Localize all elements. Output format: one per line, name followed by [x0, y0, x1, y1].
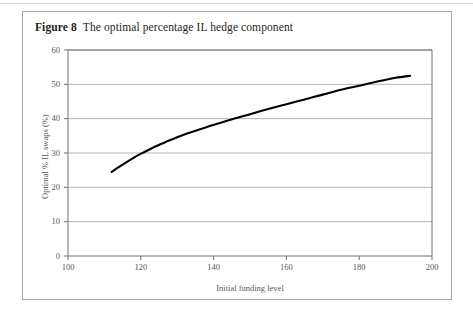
- figure-caption: Figure 8The optimal percentage IL hedge …: [35, 20, 293, 34]
- figure-label: Figure 8: [35, 21, 77, 33]
- figure-caption-text: The optimal percentage IL hedge componen…: [83, 21, 293, 33]
- figure-container: Figure 8The optimal percentage IL hedge …: [22, 11, 452, 300]
- page-top-rule: [0, 3, 473, 4]
